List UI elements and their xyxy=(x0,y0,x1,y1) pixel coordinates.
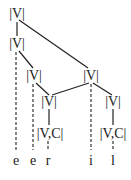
node-n3: |V| xyxy=(26,68,42,83)
leaf-i: i xyxy=(89,153,93,168)
edge-n4-n5 xyxy=(52,83,89,95)
leaf-l: l xyxy=(111,153,115,168)
node-n7: |V,C| xyxy=(37,126,64,141)
leaf-r: r xyxy=(46,153,51,168)
leaf-labels: e e r i l xyxy=(13,153,115,168)
edge-n1-n4 xyxy=(19,20,88,68)
leaf-e-1: e xyxy=(13,153,19,168)
node-labels: |V| |V| |V| |V| |V| |V| |V,C| |V,C| xyxy=(9,6,126,141)
edge-n2-n3 xyxy=(19,51,33,68)
leaf-e-2: e xyxy=(30,153,36,168)
node-n2: |V| xyxy=(9,36,25,51)
node-n4: |V| xyxy=(83,68,99,83)
dashed-edges xyxy=(16,52,113,150)
node-n8: |V,C| xyxy=(100,126,127,141)
tree-diagram: |V| |V| |V| |V| |V| |V| |V,C| |V,C| e e … xyxy=(0,0,131,180)
node-n1: |V| xyxy=(9,6,25,21)
node-n5: |V| xyxy=(41,94,57,109)
node-n6: |V| xyxy=(105,94,121,109)
